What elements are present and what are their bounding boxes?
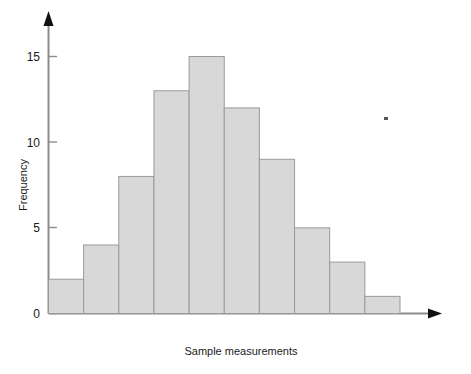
histogram-chart-canvas: 0 5 10 15 Frequency Sample measurements	[0, 0, 471, 374]
speck-artifact	[384, 117, 388, 120]
y-tick-label-10: 10	[27, 136, 41, 150]
histogram-bars	[49, 57, 401, 314]
histogram-bar	[154, 91, 189, 314]
histogram-bar	[330, 262, 365, 313]
histogram-bar	[49, 279, 84, 313]
histogram-bar	[189, 57, 224, 314]
y-axis-arrowhead-icon	[44, 11, 54, 26]
histogram-bar	[224, 108, 259, 314]
histogram-bar	[84, 245, 119, 314]
histogram-bar	[259, 159, 294, 313]
histogram-figure: 0 5 10 15 Frequency Sample measurements	[0, 0, 471, 374]
y-axis-title: Frequency	[17, 159, 29, 211]
histogram-bar	[295, 228, 330, 314]
x-axis-title: Sample measurements	[184, 345, 298, 357]
histogram-bar	[365, 296, 400, 313]
y-axis-ticks	[49, 57, 57, 314]
x-axis-arrowhead-icon	[428, 309, 442, 319]
y-tick-label-5: 5	[33, 221, 40, 235]
histogram-bar	[119, 176, 154, 313]
y-tick-label-15: 15	[27, 50, 41, 64]
y-tick-label-0: 0	[33, 307, 40, 321]
